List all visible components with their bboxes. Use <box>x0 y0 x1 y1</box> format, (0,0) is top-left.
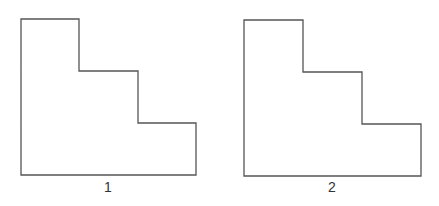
staircase-figure-1 <box>21 19 196 175</box>
figure-2-label: 2 <box>317 180 347 194</box>
diagram-canvas <box>0 0 439 206</box>
figure-1-label: 1 <box>93 180 123 194</box>
staircase-figure-2 <box>244 20 421 176</box>
